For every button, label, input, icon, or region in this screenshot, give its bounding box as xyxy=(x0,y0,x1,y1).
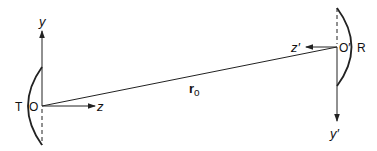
separation-vector-line xyxy=(42,47,337,106)
separation-vector-group: ro xyxy=(42,47,337,106)
transmitter-origin-label: O xyxy=(29,100,38,114)
receiver-y-label: y′ xyxy=(329,126,340,141)
separation-vector-label: ro xyxy=(189,81,200,98)
transmitter-label: T xyxy=(15,100,23,114)
antenna-coordinate-diagram: y z T O ro z′ y′ O′ R xyxy=(0,0,377,151)
transmitter-z-label: z xyxy=(96,99,104,114)
transmitter-group: y z T O xyxy=(15,14,104,145)
diagram-svg: y z T O ro z′ y′ O′ R xyxy=(0,0,377,151)
receiver-origin-label: O′ xyxy=(339,41,351,55)
receiver-label: R xyxy=(357,41,366,55)
receiver-z-label: z′ xyxy=(290,40,301,55)
receiver-group: z′ y′ O′ R xyxy=(290,8,366,141)
transmitter-y-label: y xyxy=(38,14,47,29)
